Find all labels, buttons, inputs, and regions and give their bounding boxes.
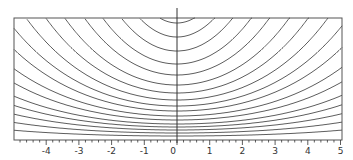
level-curves bbox=[14, 18, 342, 136]
x-tick-label: 1 bbox=[207, 146, 213, 156]
plot-frame bbox=[14, 18, 342, 140]
level-curve bbox=[14, 82, 342, 120]
x-tick-label: -2 bbox=[107, 146, 116, 156]
x-tick-label: -4 bbox=[42, 146, 51, 156]
x-tick-label: 2 bbox=[240, 146, 246, 156]
x-axis-tick-labels: -4-3-2-1012345 bbox=[42, 146, 344, 156]
level-curve bbox=[14, 48, 342, 112]
x-tick-label: 0 bbox=[170, 146, 176, 156]
x-tick-label: 4 bbox=[305, 146, 311, 156]
x-tick-label: 5 bbox=[338, 146, 344, 156]
x-tick-label: 3 bbox=[272, 146, 278, 156]
x-tick-label: -3 bbox=[74, 146, 83, 156]
x-axis-ticks bbox=[20, 140, 340, 145]
contour-plot: -4-3-2-1012345 bbox=[0, 0, 353, 160]
x-tick-label: -1 bbox=[140, 146, 149, 156]
level-curve bbox=[14, 26, 342, 106]
